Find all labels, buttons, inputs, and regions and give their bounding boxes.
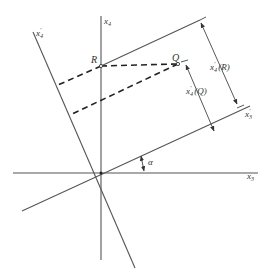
label-x4-prime-q: x4'(Q)	[185, 85, 207, 97]
point-r-marker	[99, 64, 102, 67]
label-alpha: α	[148, 157, 153, 167]
label-x4-prime: x4'	[35, 27, 43, 39]
x4-prime-axis	[33, 32, 135, 268]
origin-marker	[100, 172, 103, 175]
dim-line-x4-prime-q-ext	[181, 60, 188, 62]
angle-alpha-indicator	[141, 156, 144, 171]
label-x4-prime-r: x4'(R)	[209, 61, 230, 73]
label-x4: x4	[103, 16, 111, 27]
coordinate-rotation-diagram: x4 x4' x3 x3' R Q α x4'(R) x4'(Q)	[0, 0, 270, 275]
dim-line-x4-prime-q	[186, 65, 214, 131]
label-point-r: R	[90, 54, 97, 65]
label-point-q: Q	[172, 52, 180, 63]
dim-line-x4-prime-r-ext1	[200, 17, 206, 20]
dashed-r-to-q	[101, 64, 176, 66]
label-x3-prime: x3'	[244, 108, 252, 120]
parallel-line-through-r	[101, 20, 200, 66]
dashed-r-projection	[58, 66, 101, 85]
x3-prime-axis	[22, 106, 250, 211]
dim-line-x4-prime-r-ext2	[237, 105, 244, 108]
